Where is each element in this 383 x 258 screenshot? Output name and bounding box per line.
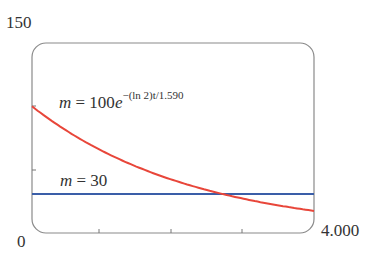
x-max-label: 4.000	[321, 221, 359, 241]
plot-area	[0, 0, 383, 258]
eq2-rest: = 30	[72, 171, 107, 190]
series-decay-curve	[32, 106, 314, 211]
eq1-equals: = 100	[71, 93, 115, 112]
eq2-variable: m	[60, 171, 72, 190]
y-max-label: 150	[6, 13, 32, 33]
constant-equation-label: m = 30	[60, 171, 107, 191]
eq1-variable: m	[59, 93, 71, 112]
eq1-exponent: −(ln 2)t/1.590	[122, 89, 183, 101]
decay-equation-label: m = 100e−(ln 2)t/1.590	[59, 91, 184, 113]
origin-label: 0	[17, 232, 26, 252]
